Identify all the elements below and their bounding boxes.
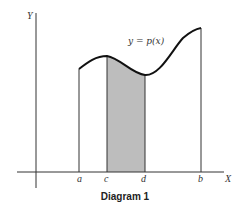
x-axis-label: X — [224, 173, 232, 184]
point-label-a: a — [77, 173, 82, 184]
area-under-curve-diagram: Y X y = p(x) a c d b — [0, 0, 243, 214]
curve-label: y = p(x) — [127, 36, 165, 46]
diagram-caption: Diagram 1 — [0, 191, 243, 202]
point-label-b: b — [198, 173, 203, 184]
point-label-d: d — [141, 173, 147, 184]
y-axis-label: Y — [27, 10, 34, 21]
point-label-c: c — [104, 173, 109, 184]
